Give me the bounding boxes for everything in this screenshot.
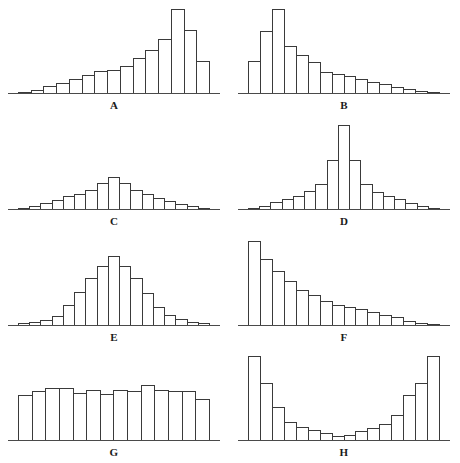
histogram-bar [59,388,74,441]
histogram-bar [73,393,88,441]
histogram-bar [18,395,33,441]
histogram-bar [69,79,83,94]
x-axis-h [238,440,450,441]
x-axis-b [238,93,450,94]
panel-label-b: B [248,99,440,112]
bar-series-h [248,353,440,441]
histogram-bar [32,391,47,441]
x-axis-f [238,325,450,326]
bar-series-c [18,122,210,210]
histogram-bar [171,9,185,94]
x-axis-g [8,440,220,441]
histogram-bar [113,390,128,441]
histogram-bar [141,385,156,441]
histogram-bar [195,399,210,441]
panel-label-e: E [18,331,210,344]
histogram-bar [145,50,159,94]
histogram-bar [196,61,210,94]
panel-f: F [230,232,460,348]
histogram-bar [427,356,440,441]
plot-area-d [248,122,440,210]
panel-grid: A B C D [0,0,460,463]
histogram-bar [86,390,101,441]
bar-series-b [248,6,440,94]
plot-area-b [248,6,440,94]
x-axis-a [8,93,220,94]
histogram-bar [182,391,197,441]
histogram-bar [107,70,121,94]
bar-series-a [18,6,210,94]
panel-c: C [0,116,230,232]
histogram-bar [120,66,134,94]
plot-area-c [18,122,210,210]
plot-area-e [18,238,210,326]
bar-series-f [248,238,440,326]
histogram-bar [127,391,142,441]
plot-area-a [18,6,210,94]
plot-area-f [248,238,440,326]
plot-area-g [18,353,210,441]
panel-label-h: H [248,446,440,459]
panel-label-f: F [248,331,440,344]
panel-g: G [0,348,230,463]
panel-label-a: A [18,99,210,112]
x-axis-c [8,209,220,210]
histogram-bar [133,58,147,94]
panel-e: E [0,232,230,348]
histogram-bar [154,390,169,441]
histogram-bar [94,71,108,94]
histogram-bar [100,394,115,441]
panel-h: H [230,348,460,463]
panel-label-c: C [18,215,210,228]
panel-label-d: D [248,215,440,228]
panel-b: B [230,0,460,116]
bar-series-e [18,238,210,326]
bar-series-g [18,353,210,441]
x-axis-e [8,325,220,326]
histogram-bar [184,30,198,94]
bar-series-d [248,122,440,210]
panel-a: A [0,0,230,116]
histogram-shapes-figure: A B C D [0,0,460,463]
histogram-bar [158,39,172,94]
histogram-bar [82,75,96,94]
panel-d: D [230,116,460,232]
histogram-bar [45,388,60,441]
plot-area-h [248,353,440,441]
x-axis-d [238,209,450,210]
panel-label-g: G [18,446,210,459]
histogram-bar [168,391,183,441]
